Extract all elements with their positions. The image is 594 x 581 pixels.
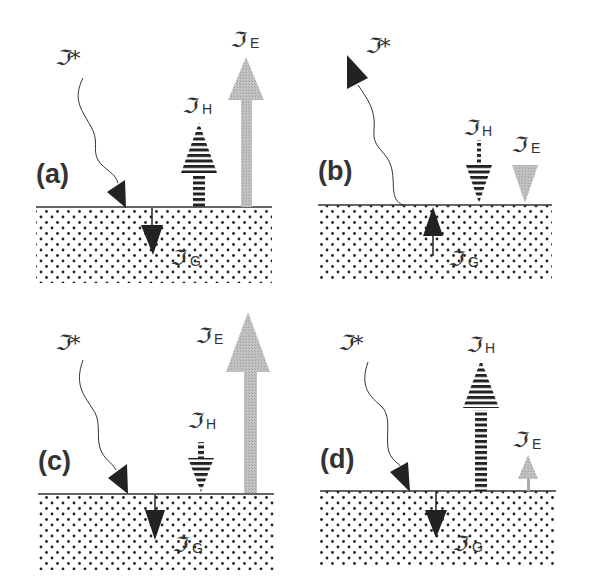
sensible-heat-symbol: ℑ — [466, 333, 484, 357]
sensible-heat-arrow-up-icon — [463, 360, 499, 408]
radiation-wave — [358, 85, 403, 205]
radiation-label: ℑ* — [338, 331, 364, 355]
latent-heat-shaft — [527, 478, 530, 491]
sensible-heat-arrow-down-icon — [188, 458, 214, 492]
latent-heat-subscript: E — [531, 140, 540, 156]
sensible-heat-symbol: ℑ — [187, 409, 205, 433]
sensible-heat-subscript: H — [485, 340, 495, 356]
sensible-heat-shaft — [475, 410, 487, 491]
radiation-arrow-down-icon — [107, 180, 126, 208]
latent-heat-subscript: E — [250, 35, 259, 51]
radiation-wave — [78, 78, 118, 183]
ground-subscript: G — [472, 539, 483, 555]
radiation-label: ℑ* — [365, 34, 391, 58]
radiation-label: ℑ* — [55, 331, 81, 355]
latent-heat-shaft — [241, 98, 252, 207]
latent-heat-shaft — [244, 370, 257, 493]
latent-heat-symbol: ℑ — [195, 324, 213, 348]
ground-subscript: G — [468, 254, 479, 270]
latent-heat-arrow-up-icon — [518, 455, 538, 479]
latent-heat-arrow-up-icon — [226, 312, 270, 372]
radiation-arrow-up-icon — [347, 55, 368, 89]
radiation-wave — [365, 362, 402, 468]
sensible-heat-shaft — [477, 140, 481, 166]
radiation-label: ℑ* — [55, 46, 81, 70]
sensible-heat-shaft — [193, 175, 205, 207]
energy-balance-figure: (a) ℑ* ℑ G ℑ H ℑ E (b) ℑ* ℑ G — [0, 0, 594, 581]
ground-subscript: G — [192, 540, 203, 556]
latent-heat-subscript: E — [214, 331, 223, 347]
panel-b: (b) ℑ* ℑ G ℑ H ℑ E — [318, 34, 552, 281]
panel-label: (c) — [38, 446, 71, 476]
panel-label: (d) — [320, 444, 354, 474]
latent-heat-symbol: ℑ — [230, 28, 248, 52]
panel-label: (b) — [318, 156, 352, 186]
latent-heat-arrow-down-icon — [512, 165, 538, 203]
sensible-heat-arrow-down-icon — [466, 165, 492, 203]
sensible-heat-subscript: H — [206, 416, 216, 432]
panel-c: (c) ℑ* ℑ G ℑ H ℑ E — [38, 312, 274, 570]
radiation-arrow-down-icon — [108, 464, 128, 494]
latent-heat-symbol: ℑ — [511, 133, 529, 157]
sensible-heat-symbol: ℑ — [182, 94, 200, 118]
sensible-heat-subscript: H — [202, 101, 212, 117]
sensible-heat-symbol: ℑ — [463, 116, 481, 140]
ground-subscript: G — [190, 253, 201, 269]
latent-heat-arrow-up-icon — [228, 57, 264, 100]
sensible-heat-arrow-up-icon — [181, 123, 217, 173]
radiation-arrow-down-icon — [390, 462, 410, 492]
radiation-wave — [79, 360, 116, 470]
sensible-heat-subscript: H — [482, 123, 492, 139]
panel-label: (a) — [36, 159, 69, 189]
latent-heat-subscript: E — [532, 436, 541, 452]
latent-heat-symbol: ℑ — [512, 428, 530, 452]
panel-d: (d) ℑ* ℑ G ℑ H ℑ E — [320, 331, 556, 567]
panel-a: (a) ℑ* ℑ G ℑ H ℑ E — [36, 28, 272, 283]
sensible-heat-shaft — [198, 442, 204, 458]
